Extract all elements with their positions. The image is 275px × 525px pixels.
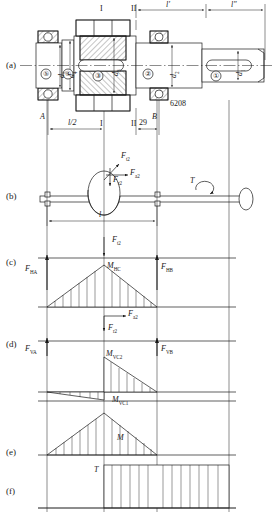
moment-label-MHC: MHC: [107, 262, 121, 272]
reaction-label-FVB: FVB: [161, 345, 173, 355]
panel-d-vertical-moment: [38, 316, 236, 401]
section-mark-I-bottom: I: [100, 120, 103, 128]
panel-label-b: (b): [6, 192, 17, 201]
panel-f-torque: [38, 465, 236, 508]
torque-label-T-panel-f: T: [94, 466, 98, 474]
dimension-l-double-prime: l": [231, 1, 237, 9]
moment-label-M: M: [117, 434, 124, 442]
panel-label-a: (a): [6, 61, 16, 70]
force-label-Fr2-panel-d: Fr2: [108, 324, 117, 334]
force-label-Ft2-panel-c: Ft2: [112, 236, 121, 246]
dimension-l-half: l/2: [68, 119, 76, 127]
reaction-label-FHB: FHB: [161, 263, 173, 273]
section-mark-I-top: I: [100, 5, 103, 13]
panel-label-e: (e): [6, 448, 16, 457]
panel-c-horizontal-moment: [38, 237, 236, 307]
moment-label-MVC2: MVC2: [106, 350, 122, 360]
dimension-29: 29: [139, 119, 147, 127]
diameter-label-d3: d3: [112, 69, 122, 76]
force-label-Fa2-panel-d: Fa2: [128, 310, 138, 320]
step-number-2: ②: [145, 71, 151, 78]
panel-e-resultant-moment: [38, 413, 236, 455]
panel-label-d: (d): [6, 340, 17, 349]
panel-label-f: (f): [6, 487, 15, 496]
reaction-label-FVA: FVA: [25, 345, 37, 355]
torque-label-T-panel-b: T: [190, 177, 194, 185]
step-number-1: ①: [213, 73, 219, 80]
bearing-code-6208: 6208: [170, 100, 186, 108]
force-label-Ft2-gear: Ft2: [121, 152, 130, 162]
dimension-l-prime: l': [166, 1, 170, 9]
panel-label-c: (c): [6, 258, 16, 267]
step-number-5: ⑤: [43, 71, 49, 78]
step-number-4: ④: [65, 71, 71, 78]
span-label-l: l: [99, 211, 101, 219]
diameter-label-d1: d1: [236, 69, 246, 76]
step-number-3: ③: [95, 73, 101, 80]
moment-label-MVC1: MVC1: [112, 396, 128, 406]
diameter-label-d2: d2: [170, 71, 180, 78]
reaction-label-FHA: FHA: [25, 265, 37, 275]
shaft-analysis-figure: [0, 0, 275, 525]
force-label-Fa2-gear: Fa2: [130, 169, 140, 179]
panel-b-force-model: [40, 164, 253, 226]
support-label-A: A: [40, 113, 45, 121]
force-label-Fr2-gear: Fr2: [113, 176, 122, 186]
section-mark-II-bottom: II: [131, 120, 136, 128]
section-mark-II-top: II: [131, 5, 136, 13]
support-label-B: B: [152, 113, 157, 121]
